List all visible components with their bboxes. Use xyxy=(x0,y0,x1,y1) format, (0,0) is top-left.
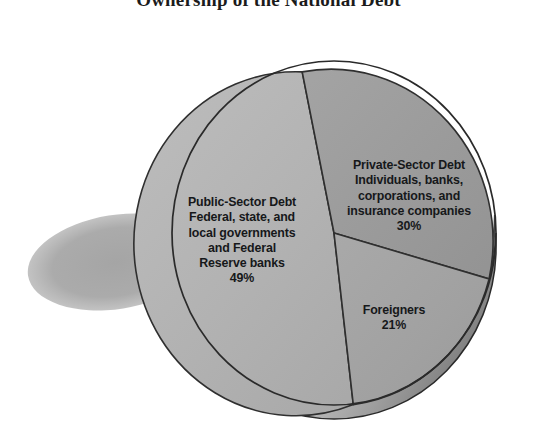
chart-canvas: Ownership of the National Debt xyxy=(0,0,537,427)
slice-label-public-text: Public-Sector Debt Federal, state, and l… xyxy=(188,195,296,270)
slice-label-private-sector-debt: Private-Sector Debt Individuals, banks, … xyxy=(330,143,488,250)
slice-label-foreigners: Foreigners 21% xyxy=(334,288,454,349)
slice-value-foreigners: 21% xyxy=(334,318,454,334)
slice-label-foreign-text: Foreigners xyxy=(363,303,426,317)
slice-value-public: 49% xyxy=(156,271,328,287)
slice-value-private: 30% xyxy=(330,219,488,235)
slice-label-public-sector-debt: Public-Sector Debt Federal, state, and l… xyxy=(156,180,328,302)
slice-label-private-text: Private-Sector Debt Individuals, banks, … xyxy=(347,158,471,218)
